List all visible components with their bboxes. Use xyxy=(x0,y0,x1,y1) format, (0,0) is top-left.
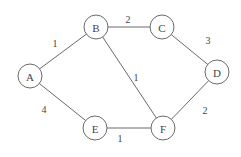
node-label: C xyxy=(158,22,165,34)
edge-weight-label: 4 xyxy=(42,104,47,115)
edge-labels-layer: 1231412 xyxy=(42,14,211,144)
graph-svg: 1231412 ABCDEF xyxy=(0,0,241,157)
node-label: F xyxy=(160,123,166,135)
graph-diagram: 1231412 ABCDEF xyxy=(0,0,241,157)
node-label: B xyxy=(92,22,99,34)
edge-b-f xyxy=(96,27,163,128)
node-a: A xyxy=(18,64,42,88)
edge-weight-label: 1 xyxy=(134,72,139,83)
edge-weight-label: 2 xyxy=(126,14,131,25)
node-e: E xyxy=(83,116,107,140)
nodes-layer: ABCDEF xyxy=(18,15,229,140)
node-d: D xyxy=(205,60,229,84)
edge-weight-label: 3 xyxy=(206,35,211,46)
node-label: A xyxy=(26,71,34,83)
node-label: D xyxy=(213,67,221,79)
edges-layer xyxy=(30,27,217,128)
node-f: F xyxy=(151,116,175,140)
edge-weight-label: 2 xyxy=(203,105,208,116)
node-b: B xyxy=(84,15,108,39)
edge-weight-label: 1 xyxy=(53,38,58,49)
edge-weight-label: 1 xyxy=(118,133,123,144)
node-label: E xyxy=(92,123,99,135)
node-c: C xyxy=(150,15,174,39)
